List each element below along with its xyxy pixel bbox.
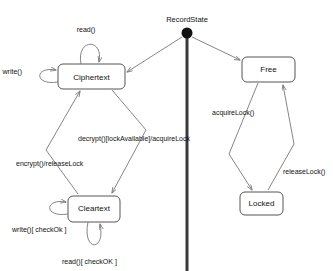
edge-label-decrypt: decrypt()[lockAvailable]/acquireLock — [78, 135, 190, 143]
diagram-title: RecordState — [166, 15, 208, 24]
edge-label-write-checkok: write()[ checkOk ] — [11, 226, 67, 234]
edge-cleartext-read-self — [87, 222, 101, 245]
edge-label-encrypt: encrypt()/releaseLock — [16, 160, 84, 168]
state-locked-label: Locked — [249, 199, 275, 208]
edge-label-read-checkok: read()[ checkOK ] — [62, 258, 117, 266]
edge-label-write: write() — [2, 68, 22, 76]
edge-initial-to-free — [192, 37, 240, 60]
uml-state-diagram: RecordState Ciphertext read() write() Cl… — [0, 0, 333, 271]
edge-label-acquirelock: acquireLock() — [212, 109, 254, 117]
edge-label-read: read() — [77, 26, 96, 34]
edge-free-to-locked — [229, 83, 258, 190]
state-cleartext-label: Cleartext — [78, 204, 111, 213]
edge-ciphertext-write-self — [40, 69, 58, 82]
edge-cleartext-to-ciphertext — [46, 91, 80, 194]
edge-initial-to-ciphertext — [127, 37, 182, 72]
state-ciphertext-label: Ciphertext — [73, 73, 110, 82]
state-free-label: Free — [260, 65, 277, 74]
initial-state-node — [182, 28, 193, 39]
diagram-canvas: RecordState Ciphertext read() write() Cl… — [0, 0, 333, 271]
edge-label-releaselock: releaseLock() — [283, 168, 325, 176]
edge-cleartext-write-self — [50, 201, 68, 214]
edge-ciphertext-read-self — [80, 44, 99, 64]
